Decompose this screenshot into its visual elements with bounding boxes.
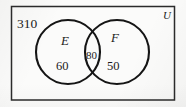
set-label-e: E [61,34,69,47]
set-f-only-count: 50 [107,60,120,73]
outside-region-count: 310 [17,17,37,31]
set-e-only-count: 60 [56,60,69,73]
universal-set-label: U [163,10,171,21]
set-label-f: F [111,31,119,44]
intersection-count: 80 [86,50,97,61]
venn-diagram-figure: 310 U E F 60 80 50 [0,0,186,107]
